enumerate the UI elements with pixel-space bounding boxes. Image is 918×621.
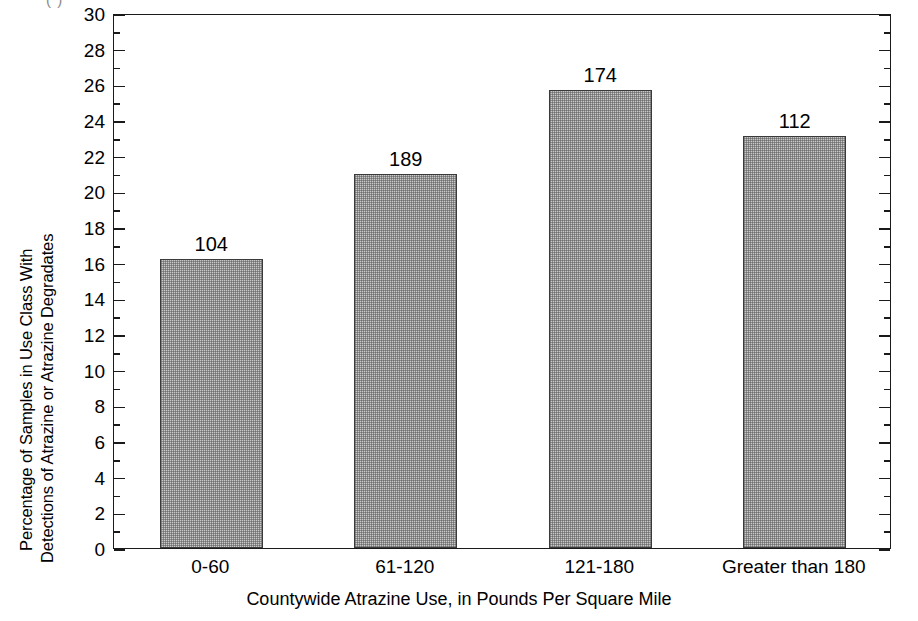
- minor-tick-left: [114, 175, 120, 177]
- bar-value-label: 104: [195, 234, 228, 255]
- y-axis-title-line-1: Percentage of Samples in Use Class With: [17, 249, 36, 551]
- minor-tick-left: [114, 389, 120, 391]
- major-tick-right: [879, 50, 890, 52]
- y-axis-title: Percentage of Samples in Use Class With …: [0, 0, 46, 565]
- minor-tick-right: [884, 246, 890, 248]
- y-tick-label: 28: [59, 40, 105, 59]
- major-tick-left: [114, 442, 125, 444]
- major-tick-left: [114, 14, 125, 16]
- x-tick-label: Greater than 180: [722, 556, 866, 578]
- minor-tick-left: [114, 103, 120, 105]
- y-axis-tick-labels: 024681012141618202224262830: [55, 14, 105, 549]
- major-tick-right: [879, 300, 890, 302]
- minor-tick-left: [114, 496, 120, 498]
- chart-figure: ( ) Percentage of Samples in Use Class W…: [0, 0, 918, 621]
- minor-tick-right: [884, 317, 890, 319]
- minor-tick-right: [884, 389, 890, 391]
- major-tick-right: [879, 121, 890, 123]
- y-tick-label: 8: [59, 397, 105, 416]
- minor-tick-left: [114, 32, 120, 34]
- major-tick-right: [879, 264, 890, 266]
- y-tick-label: 4: [59, 468, 105, 487]
- major-tick-left: [114, 121, 125, 123]
- major-tick-left: [114, 86, 125, 88]
- major-tick-left: [114, 371, 125, 373]
- minor-tick-right: [884, 531, 890, 533]
- bar: [549, 90, 652, 548]
- minor-tick-right: [884, 282, 890, 284]
- bar-value-label: 189: [389, 149, 422, 170]
- bar-value-label: 174: [584, 65, 617, 86]
- major-tick-left: [114, 407, 125, 409]
- minor-tick-left: [114, 282, 120, 284]
- plot-area: 104189174112: [113, 14, 891, 549]
- major-tick-right: [879, 549, 890, 551]
- minor-tick-left: [114, 353, 120, 355]
- x-axis-title: Countywide Atrazine Use, in Pounds Per S…: [0, 589, 918, 610]
- minor-tick-right: [884, 496, 890, 498]
- y-tick-label: 0: [59, 540, 105, 559]
- bar: [354, 174, 457, 549]
- major-tick-right: [879, 371, 890, 373]
- major-tick-right: [879, 193, 890, 195]
- y-tick-label: 20: [59, 183, 105, 202]
- minor-tick-left: [114, 317, 120, 319]
- bar: [743, 136, 846, 548]
- major-tick-right: [879, 442, 890, 444]
- minor-tick-right: [884, 68, 890, 70]
- minor-tick-left: [114, 424, 120, 426]
- y-tick-label: 24: [59, 112, 105, 131]
- major-tick-left: [114, 228, 125, 230]
- major-tick-right: [879, 478, 890, 480]
- minor-tick-right: [884, 103, 890, 105]
- major-tick-right: [879, 407, 890, 409]
- minor-tick-right: [884, 460, 890, 462]
- minor-tick-left: [114, 246, 120, 248]
- major-tick-left: [114, 549, 125, 551]
- y-tick-label: 10: [59, 361, 105, 380]
- y-tick-label: 6: [59, 433, 105, 452]
- major-tick-left: [114, 514, 125, 516]
- bar-value-label: 112: [779, 111, 811, 132]
- major-tick-left: [114, 50, 125, 52]
- minor-tick-left: [114, 68, 120, 70]
- minor-tick-left: [114, 210, 120, 212]
- minor-tick-left: [114, 139, 120, 141]
- x-tick-label: 121-180: [564, 556, 634, 578]
- y-tick-label: 16: [59, 254, 105, 273]
- y-tick-label: 2: [59, 504, 105, 523]
- major-tick-right: [879, 514, 890, 516]
- minor-tick-left: [114, 460, 120, 462]
- minor-tick-right: [884, 139, 890, 141]
- y-tick-label: 18: [59, 219, 105, 238]
- major-tick-left: [114, 157, 125, 159]
- y-tick-label: 12: [59, 326, 105, 345]
- major-tick-left: [114, 193, 125, 195]
- x-tick-label: 61-120: [375, 556, 434, 578]
- major-tick-left: [114, 478, 125, 480]
- y-tick-label: 14: [59, 290, 105, 309]
- major-tick-left: [114, 300, 125, 302]
- major-tick-right: [879, 86, 890, 88]
- major-tick-right: [879, 157, 890, 159]
- major-tick-right: [879, 335, 890, 337]
- bar: [160, 259, 263, 548]
- minor-tick-right: [884, 32, 890, 34]
- major-tick-right: [879, 228, 890, 230]
- minor-tick-left: [114, 531, 120, 533]
- x-tick-label: 0-60: [191, 556, 229, 578]
- y-tick-label: 22: [59, 147, 105, 166]
- minor-tick-right: [884, 353, 890, 355]
- major-tick-right: [879, 14, 890, 16]
- minor-tick-right: [884, 175, 890, 177]
- y-tick-label: 26: [59, 76, 105, 95]
- minor-tick-right: [884, 424, 890, 426]
- y-tick-label: 30: [59, 5, 105, 24]
- major-tick-left: [114, 335, 125, 337]
- minor-tick-right: [884, 210, 890, 212]
- major-tick-left: [114, 264, 125, 266]
